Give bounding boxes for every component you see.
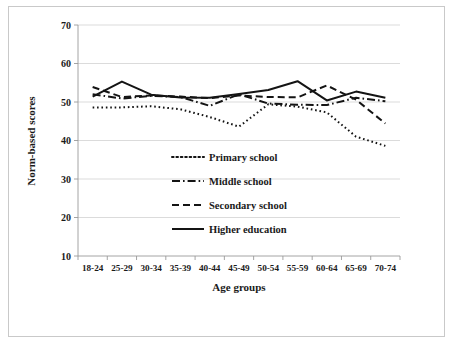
y-tick-labels-group: 10203040506070 xyxy=(61,20,71,262)
y-tick-label: 60 xyxy=(61,58,71,69)
x-tick-label: 30-34 xyxy=(140,263,162,273)
x-tick-label: 45-49 xyxy=(228,263,250,273)
x-tick-label: 60-64 xyxy=(316,263,338,273)
y-tick-label: 50 xyxy=(61,97,71,108)
y-tick-label: 20 xyxy=(61,212,71,223)
y-tick-label: 70 xyxy=(61,20,71,31)
y-axis-title: Norm-based scores xyxy=(25,96,37,186)
series-line-secondary-school xyxy=(93,85,386,123)
figure-container: 10203040506070 18-2425-2930-3435-3940-44… xyxy=(0,0,453,350)
legend-label-higher-education: Higher education xyxy=(209,224,287,235)
x-tick-label: 35-39 xyxy=(170,263,192,273)
y-tick-label: 40 xyxy=(61,135,71,146)
x-tick-label: 50-54 xyxy=(258,263,280,273)
legend-label-middle-school: Middle school xyxy=(209,176,272,187)
x-tick-label: 65-69 xyxy=(345,263,367,273)
series-line-higher-education xyxy=(93,81,386,100)
line-chart: 10203040506070 18-2425-2930-3435-3940-44… xyxy=(0,0,453,350)
x-axis-title: Age groups xyxy=(212,281,266,293)
y-tick-label: 10 xyxy=(61,251,71,262)
x-tick-label: 55-59 xyxy=(287,263,309,273)
series-line-primary-school xyxy=(93,104,386,146)
legend-group: Primary schoolMiddle schoolSecondary sch… xyxy=(172,152,287,235)
x-tick-label: 18-24 xyxy=(82,263,104,273)
x-tick-labels-group: 18-2425-2930-3435-3940-4445-4950-5455-59… xyxy=(82,263,397,273)
x-tick-label: 25-29 xyxy=(111,263,133,273)
legend-label-secondary-school: Secondary school xyxy=(209,200,287,211)
x-tick-label: 40-44 xyxy=(199,263,221,273)
y-tick-label: 30 xyxy=(61,174,71,185)
legend-label-primary-school: Primary school xyxy=(209,152,278,163)
series-group xyxy=(93,81,386,146)
gridlines-group xyxy=(78,25,400,218)
x-tick-label: 70-74 xyxy=(375,263,397,273)
